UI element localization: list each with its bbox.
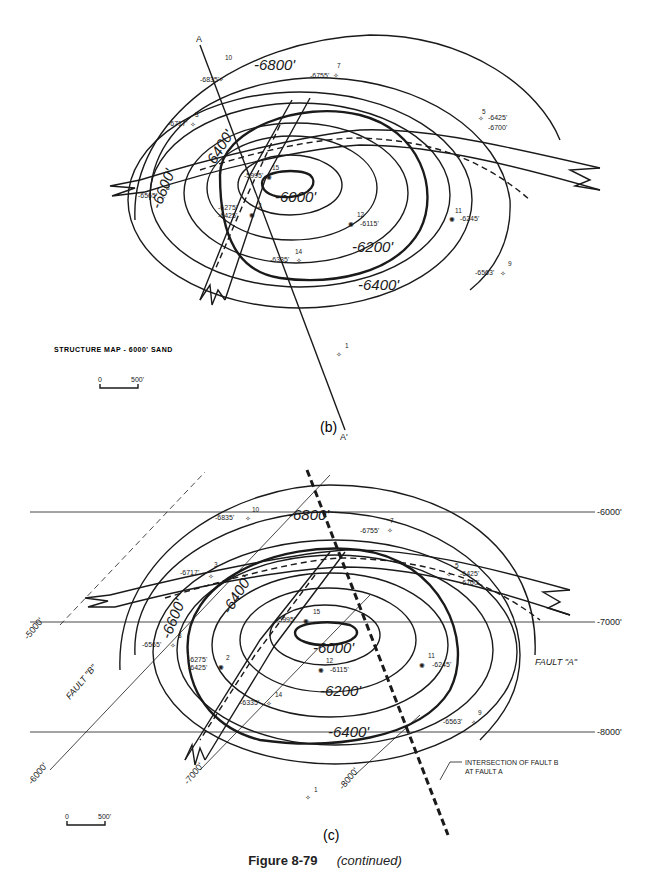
diag-label-8000: -8000' bbox=[337, 766, 361, 792]
panel-label-c: (c) bbox=[323, 827, 339, 843]
svg-text:12: 12 bbox=[326, 657, 334, 664]
well-9[interactable]: -6563'9✧ bbox=[443, 709, 482, 726]
svg-text:-6425': -6425' bbox=[460, 570, 479, 577]
svg-text:8: 8 bbox=[178, 632, 182, 639]
svg-text:-6115': -6115' bbox=[360, 220, 379, 227]
svg-text:-6565': -6565' bbox=[138, 192, 157, 199]
svg-text:3: 3 bbox=[214, 561, 218, 568]
svg-text:-6835': -6835' bbox=[215, 514, 234, 521]
map-title: STRUCTURE MAP - 6000' SAND bbox=[54, 346, 173, 353]
fault-b-dashed bbox=[200, 575, 315, 740]
svg-text:3: 3 bbox=[195, 111, 199, 118]
contour-label-6000: -6000' bbox=[313, 639, 355, 656]
svg-text:1: 1 bbox=[314, 786, 318, 793]
well-7[interactable]: -6755'7✧ bbox=[310, 62, 341, 79]
svg-text:-6563': -6563' bbox=[443, 718, 462, 725]
svg-text:10: 10 bbox=[252, 506, 260, 513]
dry-hole-icon: ✧ bbox=[500, 270, 506, 277]
dry-hole-icon: ✧ bbox=[245, 515, 251, 522]
contour-6100 bbox=[238, 155, 342, 215]
svg-text:-6425': -6425' bbox=[188, 664, 207, 671]
dry-hole-icon: ✧ bbox=[471, 719, 477, 726]
dry-hole-icon: ✧ bbox=[170, 642, 176, 649]
svg-text:-6755': -6755' bbox=[310, 72, 329, 79]
scale-bar bbox=[67, 821, 105, 825]
well-14[interactable]: -6335'14✧ bbox=[270, 248, 303, 264]
fault-a-left-zigzag bbox=[85, 595, 115, 607]
dry-hole-icon: ✧ bbox=[266, 700, 272, 707]
dry-hole-icon: ✧ bbox=[190, 121, 196, 128]
fault-b-label: FAULT "B" bbox=[64, 662, 99, 701]
svg-text:8: 8 bbox=[166, 184, 170, 191]
svg-text:5: 5 bbox=[482, 108, 486, 115]
well-5[interactable]: 5✧-6425'-6700' bbox=[478, 108, 507, 131]
well-1[interactable]: 1✧ bbox=[305, 786, 318, 801]
fault-contour-label-7000: -7000' bbox=[597, 617, 622, 627]
contour-label-6000: -6000' bbox=[275, 188, 317, 205]
svg-text:15: 15 bbox=[313, 608, 321, 615]
dry-hole-icon: ✧ bbox=[305, 794, 311, 801]
svg-text:-6275': -6275' bbox=[188, 656, 207, 663]
scale-end: 500' bbox=[98, 813, 111, 820]
annotation-leader bbox=[440, 762, 462, 780]
dry-hole-icon: ✧ bbox=[333, 72, 339, 79]
section-line-a bbox=[200, 45, 345, 430]
contour-label-6800: -6800' bbox=[288, 506, 330, 523]
svg-text:-6565': -6565' bbox=[142, 641, 161, 648]
annotation-line-2: AT FAULT A bbox=[465, 768, 503, 775]
svg-text:7: 7 bbox=[337, 62, 341, 69]
diag-label-5000: -5000' bbox=[22, 616, 46, 642]
figure-number: Figure 8-79 bbox=[248, 853, 317, 868]
svg-text:11: 11 bbox=[455, 207, 462, 214]
svg-text:-6115': -6115' bbox=[330, 666, 349, 673]
fault-a-right-zigzag bbox=[570, 168, 600, 190]
well-14[interactable]: -6335'14✧ bbox=[240, 691, 283, 707]
well-9[interactable]: -6563'9✧ bbox=[475, 260, 512, 277]
svg-text:12: 12 bbox=[357, 211, 365, 218]
fault-contour-label-6000: -6000' bbox=[597, 507, 622, 517]
fault-b-bottom-zigzag bbox=[200, 285, 225, 305]
well-12[interactable]: 12✺-6115' bbox=[348, 211, 379, 228]
svg-text:14: 14 bbox=[295, 248, 303, 255]
svg-text:-6717': -6717' bbox=[168, 120, 187, 127]
svg-text:9: 9 bbox=[478, 709, 482, 716]
svg-text:-6245': -6245' bbox=[460, 215, 479, 222]
svg-text:-6425': -6425' bbox=[488, 114, 507, 121]
structure-map-b: A A' -6800' -6000' -6200' -6400' -6600' … bbox=[0, 0, 650, 440]
svg-text:-6245': -6245' bbox=[432, 661, 451, 668]
diag-label-7000: -7000' bbox=[182, 761, 206, 787]
fault-a-right-zigzag bbox=[543, 590, 570, 615]
svg-text:5: 5 bbox=[455, 562, 459, 569]
svg-text:-5995': -5995' bbox=[276, 616, 295, 623]
contour-label-6400: -6400' bbox=[328, 723, 370, 740]
dry-hole-icon: ✧ bbox=[336, 351, 342, 358]
dry-hole-icon: ✧ bbox=[446, 571, 452, 578]
well-3[interactable]: -6717'3✧ bbox=[168, 111, 199, 128]
dry-hole-icon: ✧ bbox=[478, 115, 484, 122]
well-1[interactable]: 1✧ bbox=[336, 342, 349, 358]
svg-text:-6835': -6835' bbox=[200, 76, 219, 83]
fault-a-label: FAULT "A" bbox=[535, 657, 578, 667]
svg-text:-5995': -5995' bbox=[244, 172, 263, 179]
well-11[interactable]: 11✺-6245' bbox=[449, 207, 479, 223]
figure-caption: Figure 8-79 (continued) bbox=[0, 853, 650, 868]
svg-text:11: 11 bbox=[428, 652, 435, 659]
diag-label-6000: -6000' bbox=[26, 761, 50, 787]
dry-hole-icon: ✧ bbox=[296, 257, 302, 264]
oil-well-icon: ✺ bbox=[318, 667, 324, 674]
svg-text:-6717': -6717' bbox=[180, 569, 199, 576]
scale-start: 0 bbox=[98, 376, 102, 383]
oil-well-icon: ✺ bbox=[218, 664, 224, 671]
contour-label-6200: -6200' bbox=[320, 682, 362, 699]
svg-text:-6335': -6335' bbox=[270, 256, 289, 263]
oil-well-icon: ✺ bbox=[266, 174, 272, 181]
svg-text:-6563': -6563' bbox=[475, 269, 494, 276]
scale-start: 0 bbox=[65, 813, 69, 820]
svg-text:7: 7 bbox=[390, 517, 394, 524]
well-10[interactable]: -6835'10✧ bbox=[215, 506, 260, 522]
structure-map-c: -6000' -7000' -8000' -5000' -6000' -7000… bbox=[0, 440, 650, 860]
oil-well-icon: ✺ bbox=[449, 216, 455, 223]
svg-text:14: 14 bbox=[275, 691, 283, 698]
well-2[interactable]: -6275'-6425'2✺ bbox=[188, 654, 230, 671]
scale-bar bbox=[100, 384, 138, 388]
